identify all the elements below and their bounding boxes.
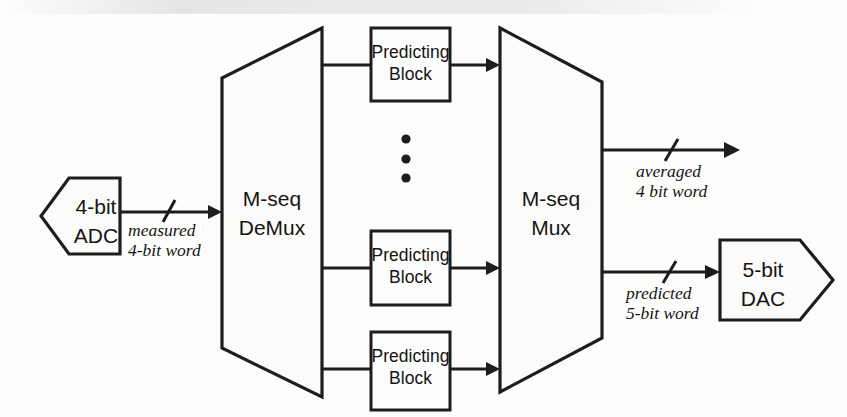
predicting-block-top-line2: Block: [389, 64, 432, 84]
arrowhead-demux-input: [208, 205, 222, 219]
wires-demux-to-blocks: [322, 65, 371, 369]
predicting-block-middle-line1: Predicting: [372, 245, 450, 265]
adc-block[interactable]: 4-bit ADC: [41, 178, 120, 254]
mux-label-line2: Mux: [531, 216, 571, 239]
predicting-block-bottom[interactable]: Predicting Block: [371, 332, 450, 410]
vertical-ellipsis-icon: [401, 134, 410, 182]
predicted-output-label-line1: predicted: [624, 283, 692, 303]
averaged-output-label-line2: 4 bit word: [636, 181, 708, 201]
ellipsis-dot-3: [401, 173, 410, 182]
input-wire-label-line1: measured: [128, 220, 196, 240]
mux-label-line1: M-seq: [522, 187, 580, 210]
demux-shape: [222, 28, 322, 397]
arrowhead-mux-input-top: [486, 58, 500, 72]
predicted-output-label-line2: 5-bit word: [626, 303, 699, 323]
ellipsis-dot-2: [401, 154, 410, 163]
adc-label-line1: 4-bit: [76, 195, 117, 218]
arrowhead-mux-input-bottom: [486, 362, 500, 376]
predicting-block-top-line1: Predicting: [372, 42, 450, 62]
mux-block[interactable]: M-seq Mux: [500, 28, 602, 392]
arrowhead-dac-input: [705, 265, 720, 279]
demux-label-line1: M-seq: [243, 187, 301, 210]
predicting-block-top[interactable]: Predicting Block: [371, 28, 450, 101]
dac-block[interactable]: 5-bit DAC: [720, 240, 833, 320]
input-wire-label-line2: 4-bit word: [128, 240, 201, 260]
block-diagram-canvas: 4-bit ADC measured 4-bit word M-seq DeMu…: [0, 0, 847, 417]
averaged-output-label-line1: averaged: [636, 161, 701, 181]
wire-adc-to-demux: measured 4-bit word: [120, 200, 222, 260]
block-diagram: 4-bit ADC measured 4-bit word M-seq DeMu…: [0, 0, 847, 417]
arrowhead-averaged-output: [724, 142, 740, 158]
predicting-block-bottom-line2: Block: [389, 368, 432, 388]
wire-mux-to-dac: predicted 5-bit word: [602, 261, 720, 323]
dac-label-line1: 5-bit: [743, 258, 784, 281]
predicting-block-middle-line2: Block: [389, 267, 432, 287]
wires-blocks-to-mux: [450, 58, 500, 376]
predicting-block-bottom-line1: Predicting: [372, 346, 450, 366]
adc-label-line2: ADC: [74, 224, 118, 247]
demux-block[interactable]: M-seq DeMux: [222, 28, 322, 397]
wire-mux-averaged-output: averaged 4 bit word: [602, 139, 740, 201]
predicting-block-middle[interactable]: Predicting Block: [371, 231, 450, 305]
ellipsis-dot-1: [401, 134, 410, 143]
mux-shape: [500, 28, 602, 392]
demux-label-line2: DeMux: [239, 216, 306, 239]
dac-label-line2: DAC: [741, 287, 785, 310]
arrowhead-mux-input-middle: [486, 261, 500, 275]
